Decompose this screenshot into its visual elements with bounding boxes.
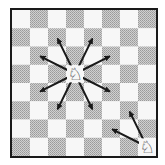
- square-b2: [30, 120, 48, 139]
- square-c2: [48, 120, 66, 139]
- square-f5: [102, 65, 120, 84]
- square-e2: [84, 120, 102, 139]
- square-d7: [66, 28, 84, 47]
- square-f7: [102, 28, 120, 47]
- square-b6: [30, 47, 48, 66]
- square-d3: [66, 101, 84, 120]
- square-g8: [120, 10, 138, 29]
- square-e3: [84, 101, 102, 120]
- square-a6: [12, 47, 30, 66]
- square-h6: [138, 47, 156, 66]
- square-f2: [102, 120, 120, 139]
- board-squares: [12, 10, 156, 156]
- square-c7: [48, 28, 66, 47]
- square-g5: [120, 65, 138, 84]
- square-a5: [12, 65, 30, 84]
- square-f1: [102, 138, 120, 157]
- square-h4: [138, 83, 156, 102]
- square-h5: [138, 65, 156, 84]
- square-h8: [138, 10, 156, 29]
- square-c8: [48, 10, 66, 29]
- square-d8: [66, 10, 84, 29]
- square-g4: [120, 83, 138, 102]
- knight-icon: ♘: [139, 137, 154, 157]
- knight-icon: ♘: [67, 64, 82, 84]
- square-d1: [66, 138, 84, 157]
- square-c3: [48, 101, 66, 120]
- square-f4: [102, 83, 120, 102]
- square-c1: [48, 138, 66, 157]
- square-g3: [120, 101, 138, 120]
- square-b8: [30, 10, 48, 29]
- square-g6: [120, 47, 138, 66]
- square-b4: [30, 83, 48, 102]
- square-f3: [102, 101, 120, 120]
- square-b1: [30, 138, 48, 157]
- square-e1: [84, 138, 102, 157]
- square-b7: [30, 28, 48, 47]
- square-h3: [138, 101, 156, 120]
- square-a3: [12, 101, 30, 120]
- square-a2: [12, 120, 30, 139]
- square-b5: [30, 65, 48, 84]
- square-e7: [84, 28, 102, 47]
- square-a8: [12, 10, 30, 29]
- square-a1: [12, 138, 30, 157]
- square-g7: [120, 28, 138, 47]
- square-b3: [30, 101, 48, 120]
- square-e8: [84, 10, 102, 29]
- square-f6: [102, 47, 120, 66]
- chess-diagram: ♘♘: [0, 0, 165, 165]
- square-d2: [66, 120, 84, 139]
- square-a4: [12, 83, 30, 102]
- square-f8: [102, 10, 120, 29]
- square-h7: [138, 28, 156, 47]
- square-a7: [12, 28, 30, 47]
